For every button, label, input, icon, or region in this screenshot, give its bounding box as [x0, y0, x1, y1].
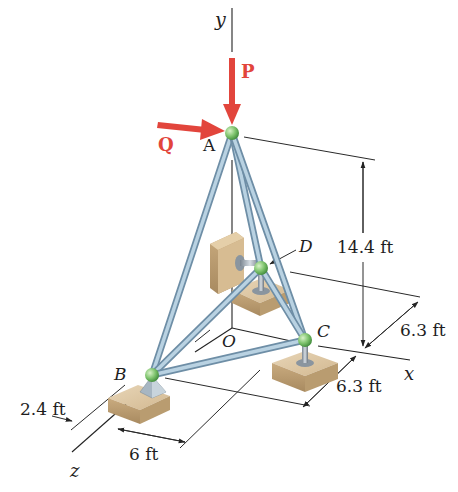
x-axis-label: x: [404, 363, 414, 384]
joint-d-label: D: [298, 236, 313, 256]
dim-c-x-label: 6.3 ft: [400, 320, 446, 340]
force-p-arrow: [223, 58, 241, 125]
origin-label: O: [222, 331, 236, 351]
z-axis-label: z: [69, 460, 80, 481]
truss-diagram: y x z O P Q A B C D 14.4 ft 6.3 ft 6.3 f…: [0, 0, 458, 492]
joint-d: [254, 261, 268, 275]
force-p-label: P: [241, 61, 255, 82]
joint-b: [145, 368, 159, 382]
force-q-label: Q: [158, 134, 174, 155]
joint-c-label: C: [317, 321, 330, 341]
y-axis-label: y: [214, 8, 226, 30]
joint-a-label: A: [202, 135, 216, 155]
dim-height-label: 14.4 ft: [337, 237, 394, 257]
joint-a: [225, 126, 239, 140]
dim-b-z-label: 2.4 ft: [20, 399, 66, 419]
joint-b-label: B: [113, 364, 127, 384]
dim-c-z-label: 6.3 ft: [336, 376, 382, 396]
joint-c: [298, 333, 312, 347]
dim-b-x-label: 6 ft: [129, 444, 159, 464]
